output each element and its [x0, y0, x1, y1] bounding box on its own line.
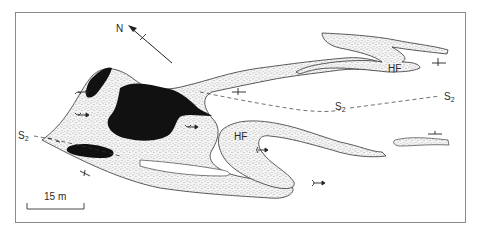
- stippled-layer-lens: [394, 138, 449, 146]
- hf-label-upper: HF: [388, 63, 401, 74]
- hf-label-lower: HF: [234, 131, 247, 142]
- scale-label: 15 m: [44, 191, 66, 202]
- geological-map: N S2 S2 S2 HF HF: [0, 0, 478, 235]
- north-label: N: [116, 23, 123, 34]
